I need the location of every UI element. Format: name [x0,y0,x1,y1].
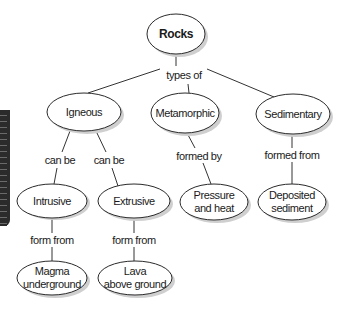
connector-formed-from: formed from [264,149,321,161]
node-label-metamorphic: Metamorphic [155,107,214,120]
connector-can-be-extrusive: can be [93,154,126,166]
connector-formed-by: formed by [175,150,222,162]
node-label-sedimentary: Sedimentary [264,108,321,121]
connector-form-from-lava: form from [111,234,156,246]
node-label-lava: Lava above ground [104,265,166,291]
node-label-magma: Magma underground [23,265,81,291]
leaf-line-2: above ground [104,278,166,291]
leaf-line-2: underground [23,278,81,291]
leaf-line-1: Pressure [194,189,235,202]
node-label-deposited-sediment: Deposited sediment [269,189,315,215]
node-label-pressure-heat: Pressure and heat [194,189,235,215]
leaf-line-2: sediment [269,202,315,215]
leaf-line-1: Lava [104,265,166,278]
leaf-line-1: Deposited [269,189,315,202]
connector-can-be-intrusive: can be [44,154,77,166]
node-label-extrusive: Extrusive [113,195,155,208]
leaf-line-2: and heat [194,202,235,215]
node-label-rocks: Rocks [159,28,193,41]
connector-form-from-magma: form from [29,234,74,246]
node-label-igneous: Igneous [66,106,102,119]
node-label-intrusive: Intrusive [33,195,71,208]
connector-types-of: types of [165,69,202,81]
leaf-line-1: Magma [23,265,81,278]
